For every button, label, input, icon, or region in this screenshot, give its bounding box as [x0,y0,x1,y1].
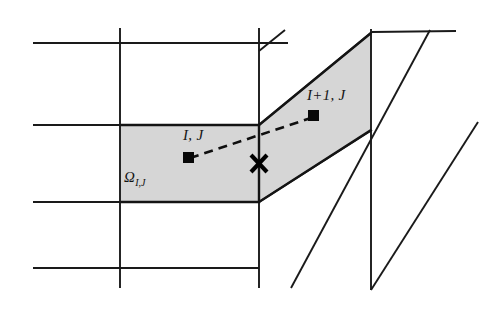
diagram-canvas [0,0,486,312]
omega-symbol: Ω [124,169,135,185]
grid-diagram-figure: I, J I+1, J ΩI,J [0,0,486,312]
cell-center-label-ip1j: I+1, J [307,88,346,103]
omega-subscript: I,J [135,177,145,188]
filled-square-marker-ij [183,152,194,163]
cell-center-label-ij: I, J [183,128,203,143]
skewed-gridline-outer-upper [372,31,456,32]
skewed-gridline-stub-top [259,30,285,51]
shaded-regions [121,33,371,202]
filled-square-marker-ip1j [308,110,319,121]
skewed-gridline-third [371,122,478,290]
control-volume-label-omega: ΩI,J [124,170,145,188]
